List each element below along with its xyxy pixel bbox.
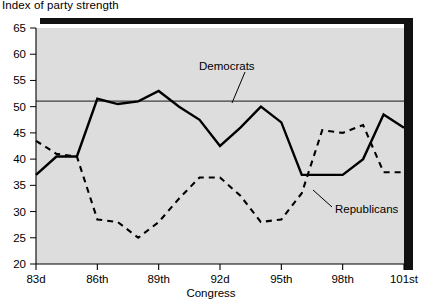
party-strength-chart: Index of party strength 2025303540455055… xyxy=(0,0,422,305)
shadow-right xyxy=(404,18,413,270)
y-tick-label: 45 xyxy=(13,127,26,139)
y-tick-label: 25 xyxy=(13,232,26,244)
x-tick-label: 95th xyxy=(270,273,292,285)
y-tick-label: 65 xyxy=(13,22,26,34)
y-tick-label: 55 xyxy=(13,74,26,86)
x-tick-label: 86th xyxy=(86,273,108,285)
republicans-series-label: Republicans xyxy=(335,203,399,215)
y-tick-label: 50 xyxy=(13,101,26,113)
x-tick-label: 83d xyxy=(26,273,45,285)
x-tick-label: 98th xyxy=(331,273,353,285)
plot-top-gap xyxy=(36,24,404,28)
x-axis-ticks: 83d86th89th92d95th98th101st xyxy=(26,264,418,285)
y-tick-label: 20 xyxy=(13,258,26,270)
x-tick-label: 92d xyxy=(210,273,229,285)
y-tick-label: 35 xyxy=(13,179,26,191)
x-tick-label: 89th xyxy=(147,273,169,285)
y-axis-ticks: 20253035404550556065 xyxy=(13,22,36,270)
y-tick-label: 30 xyxy=(13,206,26,218)
chart-plot-area: 20253035404550556065 83d86th89th92d95th9… xyxy=(0,0,422,305)
x-axis-title: Congress xyxy=(0,287,422,299)
y-tick-label: 60 xyxy=(13,48,26,60)
x-tick-label: 101st xyxy=(390,273,419,285)
democrats-series-label: Democrats xyxy=(199,60,255,72)
y-tick-label: 40 xyxy=(13,153,26,165)
